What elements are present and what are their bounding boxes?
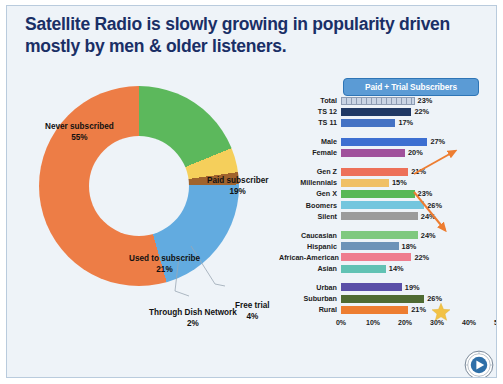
star-highlight-icon bbox=[431, 302, 451, 322]
bar-row: Millennials15% bbox=[279, 178, 497, 187]
bar-track bbox=[341, 242, 399, 250]
bar-track bbox=[341, 253, 411, 261]
bar-label-millennials: Millennials bbox=[279, 178, 337, 187]
donut-label-paid-value: 19% bbox=[207, 187, 268, 198]
bar-fill bbox=[341, 231, 418, 239]
bar-row: TS 1117% bbox=[279, 118, 497, 127]
bar-row: Boomers26% bbox=[279, 201, 497, 210]
bar-label-female: Female bbox=[279, 148, 337, 157]
bar-label-boomers: Boomers bbox=[279, 201, 337, 210]
bar-value: 14% bbox=[389, 264, 404, 273]
x-axis-tick: 40% bbox=[462, 319, 476, 326]
bar-value: 21% bbox=[411, 305, 426, 314]
bar-value: 23% bbox=[418, 189, 433, 198]
bar-track bbox=[341, 190, 415, 198]
donut-label-free-value: 4% bbox=[235, 312, 270, 323]
bar-label-hispanic: Hispanic bbox=[279, 242, 337, 251]
donut-label-never-subscribed: Never subscribed 55% bbox=[45, 122, 114, 143]
bar-label-silent: Silent bbox=[279, 212, 337, 221]
bar-track bbox=[341, 179, 389, 187]
bar-value: 20% bbox=[408, 148, 423, 157]
bar-fill bbox=[341, 119, 395, 127]
bar-fill bbox=[341, 179, 389, 187]
bar-track bbox=[341, 149, 405, 157]
bar-row: Silent24% bbox=[279, 212, 497, 221]
bar-row: African-American22% bbox=[279, 253, 497, 262]
bar-row: Asian14% bbox=[279, 264, 497, 273]
bar-fill bbox=[341, 283, 402, 291]
bar-label-total: Total bbox=[279, 96, 337, 105]
donut-label-paid-name: Paid subscriber bbox=[207, 176, 268, 187]
bar-label-caucasian: Caucasian bbox=[279, 231, 337, 240]
bar-track bbox=[341, 108, 411, 116]
bar-row: Total23% bbox=[279, 96, 497, 105]
bar-label-gen-z: Gen Z bbox=[279, 167, 337, 176]
bar-value: 23% bbox=[418, 96, 433, 105]
donut-label-paid-subscriber: Paid subscriber 19% bbox=[207, 176, 268, 197]
x-axis-tick: 10% bbox=[366, 319, 380, 326]
bar-row: Urban19% bbox=[279, 283, 497, 292]
bar-track bbox=[341, 231, 418, 239]
bar-track bbox=[341, 119, 395, 127]
play-badge-logo-icon bbox=[464, 350, 494, 378]
bar-value: 22% bbox=[414, 107, 429, 116]
bar-value: 21% bbox=[411, 167, 426, 176]
bar-row: Suburban26% bbox=[279, 294, 497, 303]
bar-track bbox=[341, 97, 415, 105]
bar-fill bbox=[341, 242, 399, 250]
donut-label-free-name: Free trial bbox=[235, 301, 270, 312]
bar-value: 24% bbox=[421, 212, 436, 221]
x-axis-tick: 0% bbox=[336, 319, 346, 326]
bar-label-asian: Asian bbox=[279, 264, 337, 273]
bar-row: Male27% bbox=[279, 137, 497, 146]
bar-value: 26% bbox=[427, 201, 442, 210]
bar-track bbox=[341, 212, 418, 220]
donut-label-used-name: Used to subscribe bbox=[129, 254, 200, 265]
slide-canvas: Satellite Radio is slowly growing in pop… bbox=[0, 0, 503, 384]
bar-track bbox=[341, 201, 424, 209]
bar-track bbox=[341, 168, 408, 176]
bar-fill bbox=[341, 295, 424, 303]
bar-track bbox=[341, 265, 386, 273]
bar-chart: 0%10%20%30%40%50% Total23%TS 1222%TS 111… bbox=[279, 96, 497, 346]
bar-value: 17% bbox=[398, 118, 413, 127]
bar-label-suburban: Suburban bbox=[279, 294, 337, 303]
bar-row: Caucasian24% bbox=[279, 231, 497, 240]
bar-row: Hispanic18% bbox=[279, 242, 497, 251]
paid-trial-subscribers-button[interactable]: Paid + Trial Subscribers bbox=[343, 78, 479, 96]
bar-value: 22% bbox=[414, 253, 429, 262]
bar-value: 15% bbox=[392, 178, 407, 187]
bar-value: 18% bbox=[402, 242, 417, 251]
bar-fill bbox=[341, 108, 411, 116]
bar-label-urban: Urban bbox=[279, 283, 337, 292]
bar-track bbox=[341, 295, 424, 303]
bar-fill bbox=[341, 168, 408, 176]
bar-track bbox=[341, 283, 402, 291]
donut-label-through-dish-network: Through Dish Network 2% bbox=[149, 308, 237, 329]
donut-label-used-value: 21% bbox=[129, 265, 200, 276]
bar-row: Gen X23% bbox=[279, 189, 497, 198]
bar-track bbox=[341, 138, 427, 146]
donut-label-never-value: 55% bbox=[45, 133, 114, 144]
bar-track bbox=[341, 306, 408, 314]
x-axis-tick: 20% bbox=[398, 319, 412, 326]
bar-fill bbox=[341, 149, 405, 157]
bar-fill bbox=[341, 138, 427, 146]
bar-value: 24% bbox=[421, 231, 436, 240]
donut-label-used-to-subscribe: Used to subscribe 21% bbox=[129, 254, 200, 275]
x-axis-tick: 50% bbox=[494, 319, 497, 326]
bar-label-ts-12: TS 12 bbox=[279, 107, 337, 116]
bar-row: Rural21% bbox=[279, 305, 497, 314]
bar-value: 27% bbox=[430, 137, 445, 146]
bar-fill bbox=[341, 306, 408, 314]
bar-fill bbox=[341, 212, 418, 220]
x-axis: 0%10%20%30%40%50% bbox=[341, 319, 497, 331]
bar-label-african-american: African-American bbox=[279, 253, 337, 262]
bar-fill bbox=[341, 201, 424, 209]
slide-panel: Satellite Radio is slowly growing in pop… bbox=[6, 5, 497, 378]
bar-label-ts-11: TS 11 bbox=[279, 118, 337, 127]
bar-fill bbox=[341, 265, 386, 273]
bar-fill bbox=[341, 190, 415, 198]
bar-row: Female20% bbox=[279, 148, 497, 157]
donut-label-never-name: Never subscribed bbox=[45, 122, 114, 133]
